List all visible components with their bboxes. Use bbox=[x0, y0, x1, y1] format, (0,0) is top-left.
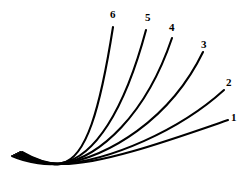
curve-family-figure: 6 5 4 3 2 1 bbox=[0, 0, 248, 180]
curve-label-6: 6 bbox=[110, 9, 116, 20]
curve-label-5: 5 bbox=[145, 12, 151, 23]
curve-label-3: 3 bbox=[201, 39, 207, 50]
curve-label-4: 4 bbox=[169, 22, 175, 33]
curve-label-1: 1 bbox=[231, 112, 237, 123]
curve-canvas bbox=[0, 0, 248, 180]
curve-label-2: 2 bbox=[226, 77, 232, 88]
